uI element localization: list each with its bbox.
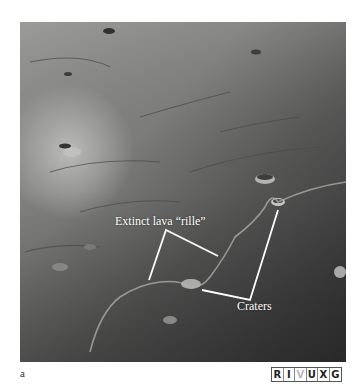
- lunar-surface-photo: [20, 22, 346, 362]
- panel-letter: a: [20, 367, 25, 379]
- band-visible: V: [295, 368, 307, 381]
- wavelength-band-indicator: R I V U X G: [271, 367, 342, 382]
- band-gamma: G: [330, 368, 342, 381]
- band-infrared: I: [284, 368, 296, 381]
- rille-label: Extinct lava “rille”: [115, 214, 206, 229]
- craters-label: Craters: [237, 299, 272, 314]
- band-radio: R: [272, 368, 284, 381]
- band-xray: X: [318, 368, 330, 381]
- band-ultraviolet: U: [307, 368, 319, 381]
